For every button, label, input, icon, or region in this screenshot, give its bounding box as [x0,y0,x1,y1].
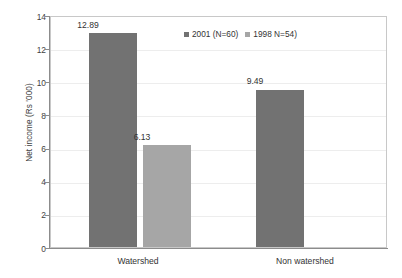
x-category-label-watershed: Watershed [88,256,188,266]
y-tick-label-14: 14 [24,13,46,21]
bar-non-watershed-2001[interactable] [256,90,304,247]
legend: 2001 (N=60) 1998 N=54) [184,29,297,39]
y-tick-label-2: 2 [24,211,46,219]
bar-value-label-watershed-1998: 6.13 [118,133,166,142]
y-tick-label-12: 12 [24,46,46,54]
x-axis-line [49,248,388,249]
bar-value-label-watershed-2001: 12.89 [64,21,112,30]
bar-value-label-non-watershed-2001: 9.49 [231,77,279,86]
y-tick-label-10: 10 [24,79,46,87]
y-tick-label-0: 0 [24,245,46,253]
plot-area: 2001 (N=60) 1998 N=54) [50,16,387,248]
legend-entry-1998[interactable]: 1998 N=54) [245,29,297,39]
y-tick-label-8: 8 [24,112,46,120]
legend-swatch-2001-icon [184,32,189,37]
legend-entry-2001[interactable]: 2001 (N=60) [184,29,238,39]
legend-label-1998: 1998 N=54) [253,29,297,39]
bar-chart-figure: Net income (Rs '000) 14 12 10 8 6 4 2 0 [0,0,402,278]
y-axis-line [49,16,50,249]
legend-swatch-1998-icon [245,32,250,37]
y-tick-label-6: 6 [24,145,46,153]
legend-label-2001: 2001 (N=60) [192,29,238,39]
bar-watershed-1998[interactable] [143,145,191,247]
x-category-label-non-watershed: Non watershed [255,256,355,266]
y-axis-tick-labels: 14 12 10 8 6 4 2 0 [22,0,46,278]
y-tick-label-4: 4 [24,178,46,186]
